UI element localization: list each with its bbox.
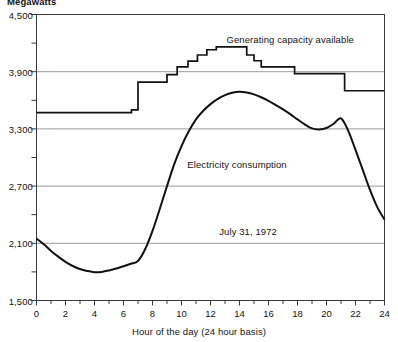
x-tick-label: 2 (63, 308, 68, 319)
x-tick-label: 10 (176, 308, 187, 319)
axes-frame (37, 15, 385, 301)
y-tick-label: 2,100 (9, 238, 33, 249)
x-tick-label: 16 (263, 308, 274, 319)
y-tick-label: 4,500 (9, 9, 33, 20)
x-tick-label: 8 (150, 308, 155, 319)
x-tick-label: 18 (292, 308, 303, 319)
x-tick-label: 20 (321, 308, 332, 319)
x-tick-label: 6 (121, 308, 126, 319)
annotation-label: Generating capacity available (226, 34, 354, 45)
y-tick-label: 3,300 (9, 123, 33, 134)
plot-area (0, 0, 398, 342)
x-tick-label: 4 (92, 308, 97, 319)
x-tick-label: 0 (34, 308, 39, 319)
x-tick-label: 12 (205, 308, 216, 319)
y-axis-tick-labels: 1,5002,1002,7003,3003,9004,500 (0, 0, 33, 342)
annotation-label: Electricity consumption (187, 159, 286, 170)
y-tick-label: 2,700 (9, 181, 33, 192)
annotation-label: July 31, 1972 (219, 226, 277, 237)
x-tick-label: 24 (379, 308, 390, 319)
x-axis-title: Hour of the day (24 hour basis) (0, 326, 398, 337)
x-tick-label: 14 (234, 308, 245, 319)
y-tick-label: 3,900 (9, 66, 33, 77)
electricity-chart: Megawatts 1,5002,1002,7003,3003,9004,500… (0, 0, 398, 342)
y-tick-label: 1,500 (9, 295, 33, 306)
series-line-2 (37, 92, 385, 273)
x-tick-label: 22 (350, 308, 361, 319)
